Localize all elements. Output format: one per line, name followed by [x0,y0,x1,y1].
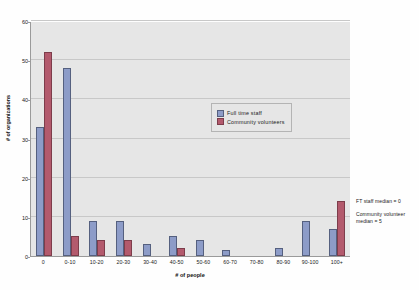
bar [116,221,124,256]
bar-group [58,22,85,256]
x-axis-tick-label: 100+ [323,259,350,271]
bar-group [84,22,111,256]
bar-group [217,22,244,256]
y-axis-tick-mark [28,257,30,258]
plot-area [30,22,350,257]
x-axis-tick-label: 90-100 [297,259,324,271]
bar [329,229,337,256]
x-axis-tick-label: 50-60 [190,259,217,271]
x-axis-tick-labels: 00-1010-2020-3030-4040-5050-6060-7070-80… [30,259,350,271]
y-axis-tick-label: 60 [8,19,28,25]
gridline [31,20,350,21]
x-axis-tick-label: 0-10 [57,259,84,271]
y-axis-tick-label: 30 [8,137,28,143]
annotation-community-volunteer-median: Community volunteer median = 5 [356,211,418,226]
bar-group [190,22,217,256]
bar-group [31,22,58,256]
bar [143,244,151,256]
x-axis-title: # of people [30,272,350,278]
legend-swatch-icon [217,118,224,125]
bar [63,68,71,256]
y-axis-tick-label: 10 [8,215,28,221]
bar [97,240,105,256]
bar [36,127,44,256]
y-axis-tick-label: 0 [8,254,28,260]
bar-chart: 0102030405060 00-1010-2020-3030-4040-505… [0,0,419,290]
bar [89,221,97,256]
legend-item-community-volunteers: Community volunteers [217,118,285,125]
y-axis-title: # of organizations [5,88,11,148]
bar [196,240,204,256]
bar [337,201,345,256]
legend-label: Full time staff [227,110,262,116]
x-axis-tick-label: 10-20 [83,259,110,271]
bar [71,236,79,256]
legend-swatch-icon [217,110,224,117]
bar-group [323,22,350,256]
annotation-ft-staff-median: FT staff median = 0 [356,198,418,206]
bar [44,52,52,256]
bar [302,221,310,256]
y-axis-tick-label: 40 [8,97,28,103]
legend-item-full-time-staff: Full time staff [217,110,285,117]
x-axis-tick-label: 70-80 [243,259,270,271]
bar [177,248,185,256]
x-axis-tick-label: 20-30 [110,259,137,271]
bar-group [270,22,297,256]
x-axis-tick-label: 60-70 [217,259,244,271]
bar-group [111,22,138,256]
bar [124,240,132,256]
y-axis-tick-label: 50 [8,58,28,64]
bar [169,236,177,256]
x-axis-tick-label: 80-90 [270,259,297,271]
bar-group [164,22,191,256]
chart-legend: Full time staff Community volunteers [211,103,292,132]
chart-annotations: FT staff median = 0 Community volunteer … [356,198,418,231]
bar [275,248,283,256]
legend-label: Community volunteers [227,119,285,125]
bar-group [297,22,324,256]
bar-groups [31,22,350,256]
x-axis-tick-label: 40-50 [163,259,190,271]
bar-group [137,22,164,256]
bar [222,250,230,256]
bar-group [244,22,271,256]
x-axis-tick-label: 30-40 [137,259,164,271]
y-axis-tick-label: 20 [8,176,28,182]
x-axis-tick-label: 0 [30,259,57,271]
